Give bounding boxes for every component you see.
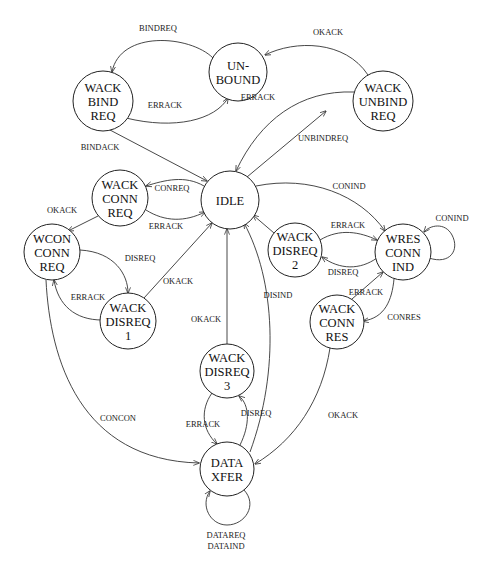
edge-idle-to-wres-conn-ind <box>256 183 385 231</box>
state-label: REQ <box>108 206 133 220</box>
arrow-line <box>256 183 385 231</box>
edge-label: DISREQ <box>125 253 156 263</box>
state-label: REQ <box>371 109 396 123</box>
edge-label: ERRACK <box>71 292 106 302</box>
state-label: WACK <box>102 178 139 192</box>
state-label: WACK <box>209 351 246 365</box>
edge-label: ERRACK <box>186 419 221 429</box>
edge-label: ERRACK <box>241 92 276 102</box>
arrow-line <box>247 111 326 177</box>
edge-wack-disreq-2-to-wres-conn-ind <box>320 232 377 240</box>
arrow-line <box>239 396 247 445</box>
state-label: WCON <box>33 232 71 246</box>
state-label: DISREQ <box>105 315 150 329</box>
arrow-line <box>80 250 128 293</box>
state-label: WACK <box>85 81 122 95</box>
state-idle: IDLE <box>201 171 259 229</box>
state-label: REQ <box>91 109 116 123</box>
edge-label: OKACK <box>313 27 344 37</box>
state-label: DATA <box>211 456 243 470</box>
arrow-line <box>255 348 330 464</box>
state-label: DISREQ <box>204 365 249 379</box>
state-wack-unbind-req: WACKUNBINDREQ <box>353 71 413 131</box>
state-label: XFER <box>211 470 244 484</box>
state-label: RES <box>326 330 349 344</box>
edge-unbound-to-wack-bind-req <box>112 41 213 72</box>
state-wack-conn-res: WACKCONNRES <box>310 295 364 349</box>
state-label: 1 <box>125 329 131 343</box>
edge-idle-to-wack-unbind-req <box>247 111 326 177</box>
edge-wres-conn-ind-to-wack-disreq-2 <box>322 257 377 267</box>
arrow-line <box>253 215 274 233</box>
edge-wack-disreq-2-to-idle <box>253 215 274 233</box>
state-label: WACK <box>110 301 147 315</box>
edge-data-xfer-to-wack-disreq-3 <box>239 396 247 445</box>
edge-label: CONIND <box>435 213 468 223</box>
state-label: UNBIND <box>359 95 408 109</box>
edge-label: BINDREQ <box>139 23 177 33</box>
state-wack-disreq-1: WACKDISREQ1 <box>100 293 156 349</box>
edge-label: DATAIND <box>207 541 244 551</box>
arrow-line <box>322 257 377 267</box>
edge-label: OKACK <box>163 276 194 286</box>
edge-wack-conn-res-to-data-xfer <box>255 348 330 464</box>
arrow-line <box>236 92 354 171</box>
edge-label: ERRACK <box>149 221 184 231</box>
edge-label: ERRACK <box>331 220 366 230</box>
arrow-line <box>112 41 213 72</box>
edge-label: CONREQ <box>155 183 190 193</box>
state-data-xfer: DATAXFER <box>200 442 254 496</box>
state-label: BIND <box>88 95 119 109</box>
state-label: WACK <box>277 230 314 244</box>
state-label: CONN <box>385 246 420 260</box>
state-label: 2 <box>292 258 298 272</box>
state-label: WACK <box>319 302 356 316</box>
arrow-line <box>146 210 205 219</box>
edge-label: BINDACK <box>81 142 121 152</box>
edge-wcon-conn-req-to-wack-disreq-1 <box>80 250 128 293</box>
edge-label: ERRACK <box>349 287 384 297</box>
arrow-line <box>265 45 368 75</box>
edge-wack-unbind-req-to-idle <box>236 92 354 171</box>
state-label: REQ <box>40 260 65 274</box>
edge-label: DISREQ <box>241 408 272 418</box>
edge-label: CONRES <box>387 312 421 322</box>
state-label: 3 <box>224 379 230 393</box>
state-label: UN- <box>227 59 249 73</box>
state-wres-conn-ind: WRESCONNIND <box>375 224 431 280</box>
state-wack-disreq-2: WACKDISREQ2 <box>268 223 322 277</box>
state-label: WACK <box>365 81 402 95</box>
edge-label: DISIND <box>264 290 293 300</box>
state-nodes: UN-BOUNDWACKBINDREQWACKUNBINDREQIDLEWACK… <box>24 43 431 496</box>
edge-label: DATAREQ <box>207 530 246 540</box>
edge-wack-unbind-req-to-unbound <box>265 45 368 75</box>
edge-label: CONCON <box>100 413 136 423</box>
arrow-line <box>320 232 377 240</box>
state-label: WRES <box>386 232 421 246</box>
state-label: IDLE <box>216 194 245 208</box>
state-wack-disreq-3: WACKDISREQ3 <box>200 344 254 398</box>
edge-wack-conn-req-to-wcon-conn-req <box>68 216 98 231</box>
edge-label: UNBINDREQ <box>298 133 348 143</box>
edge-label: OKACK <box>191 314 222 324</box>
state-label: CONN <box>34 246 69 260</box>
state-wack-conn-req: WACKCONNREQ <box>92 170 148 226</box>
edge-label: CONIND <box>332 181 365 191</box>
edge-wack-conn-req-to-idle <box>146 210 205 219</box>
edge-label: OKACK <box>328 410 359 420</box>
state-label: IND <box>392 260 414 274</box>
edge-label: ERRACK <box>148 100 183 110</box>
state-wack-bind-req: WACKBINDREQ <box>73 71 133 131</box>
edge-label: OKACK <box>47 205 78 215</box>
state-label: CONN <box>102 192 137 206</box>
edge-label: DISREQ <box>328 267 359 277</box>
arrow-line <box>68 216 98 231</box>
state-wcon-conn-req: WCONCONNREQ <box>24 224 80 280</box>
state-label: BOUND <box>216 73 260 87</box>
state-diagram: UN-BOUNDWACKBINDREQWACKUNBINDREQIDLEWACK… <box>0 0 484 573</box>
state-label: DISREQ <box>272 244 317 258</box>
state-label: CONN <box>319 316 354 330</box>
